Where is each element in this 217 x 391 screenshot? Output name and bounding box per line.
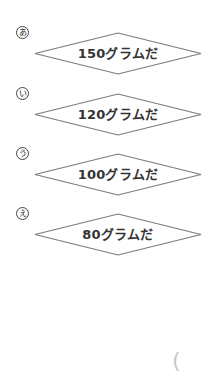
diamond-shape: 120グラムだ [34,93,202,136]
option-marker: い [16,87,29,100]
option-a[interactable]: あ 150グラムだ [0,26,217,86]
answer-bracket: ( [172,348,181,374]
option-i[interactable]: い 120グラムだ [0,87,217,147]
option-marker: う [16,147,29,160]
option-label: 120グラムだ [34,93,202,136]
option-e[interactable]: え 80グラムだ [0,207,217,267]
option-label: 100グラムだ [34,153,202,196]
option-label: 80グラムだ [34,213,202,256]
diamond-shape: 80グラムだ [34,213,202,256]
option-u[interactable]: う 100グラムだ [0,147,217,207]
option-label: 150グラムだ [34,32,202,75]
option-marker: え [16,207,29,220]
diamond-shape: 150グラムだ [34,32,202,75]
diamond-shape: 100グラムだ [34,153,202,196]
option-marker: あ [16,26,29,39]
